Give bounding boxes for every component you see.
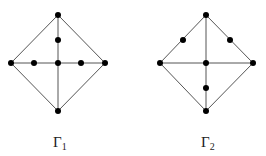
vertex-right xyxy=(102,60,108,66)
vertex-center xyxy=(55,60,61,66)
graph-edge xyxy=(11,15,58,63)
vertex-lower-mid xyxy=(203,85,209,91)
vertex-upper-mid xyxy=(55,37,61,43)
vertex-center xyxy=(203,60,209,66)
graph-gamma-2: Γ2 xyxy=(157,12,256,152)
vertex-bottom xyxy=(203,108,209,114)
graph-diagram: Γ1 Γ2 xyxy=(0,0,266,156)
vertex-upper-right-mid xyxy=(227,37,233,43)
graph-edge xyxy=(58,63,105,111)
graph-gamma-1: Γ1 xyxy=(8,12,108,152)
vertex-left-mid xyxy=(31,60,37,66)
graph-edge xyxy=(160,63,206,111)
vertex-top xyxy=(55,12,61,18)
vertex-top xyxy=(203,12,209,18)
graph-label: Γ1 xyxy=(53,134,67,152)
graph-edge xyxy=(11,63,58,111)
graph-label: Γ2 xyxy=(201,134,215,152)
graph-edge xyxy=(58,15,105,63)
graph-edge xyxy=(206,63,253,111)
vertex-right-mid xyxy=(78,60,84,66)
vertex-left xyxy=(8,60,14,66)
vertex-bottom xyxy=(55,108,61,114)
vertex-right xyxy=(250,60,256,66)
vertex-upper-left-mid xyxy=(180,37,186,43)
vertex-left xyxy=(157,60,163,66)
